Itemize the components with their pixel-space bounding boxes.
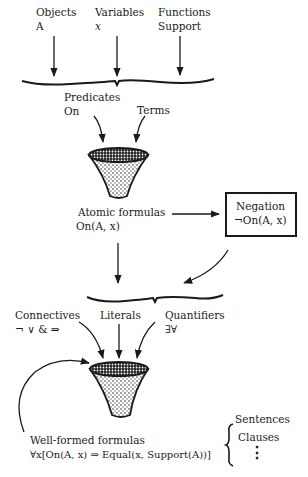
- label-wff: Well-formed formulas: [30, 434, 145, 447]
- example-variables: x: [95, 20, 101, 33]
- output-sentences: Sentences: [235, 413, 290, 426]
- label-negation: Negation: [236, 200, 285, 213]
- example-atomic-formulas: On(A, x): [76, 220, 120, 233]
- arrow-predicates: [94, 116, 103, 142]
- arrow-feedback-loop: [19, 360, 89, 432]
- example-wff: ∀x[On(A, x) ⇒ Equal(x, Support(A))]: [30, 448, 211, 461]
- example-negation: ¬On(A, x): [234, 214, 287, 227]
- example-objects: A: [36, 20, 44, 33]
- label-connectives: Connectives: [15, 309, 80, 322]
- brace-terms: [22, 79, 214, 85]
- arrow-connectives: [79, 322, 103, 358]
- label-variables: Variables: [95, 6, 144, 19]
- label-terms: Terms: [137, 104, 170, 117]
- arrow-negation-to-literals: [184, 250, 228, 283]
- label-atomic-formulas: Atomic formulas: [78, 206, 165, 219]
- example-functions: Support: [158, 20, 201, 33]
- label-objects: Objects: [36, 6, 76, 19]
- label-literals: Literals: [100, 309, 141, 322]
- label-quantifiers: Quantifiers: [165, 309, 225, 322]
- output-ellipsis: ⋮: [249, 444, 265, 462]
- symbols-quantifiers: ∃∀: [165, 323, 177, 336]
- funnel-wff-icon: [90, 362, 148, 417]
- diagram-canvas: [0, 0, 308, 477]
- label-predicates: Predicates: [64, 91, 120, 104]
- label-functions: Functions: [158, 6, 211, 19]
- funnel-atomic-icon: [89, 148, 148, 198]
- arrow-quantifiers: [137, 322, 155, 358]
- brace-outputs: [226, 424, 233, 466]
- brace-literals: [87, 295, 223, 302]
- arrow-terms: [136, 116, 145, 142]
- symbols-connectives: ¬ ∨ & ⇒: [15, 323, 60, 336]
- example-predicates: On: [64, 105, 79, 118]
